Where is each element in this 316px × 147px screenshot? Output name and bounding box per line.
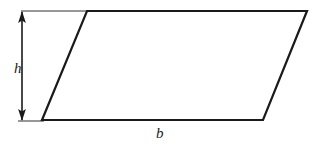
parallelogram-outline [42, 11, 307, 120]
height-label: h [14, 61, 22, 76]
base-label: b [156, 126, 164, 141]
geometry-figure: h b [0, 0, 316, 147]
